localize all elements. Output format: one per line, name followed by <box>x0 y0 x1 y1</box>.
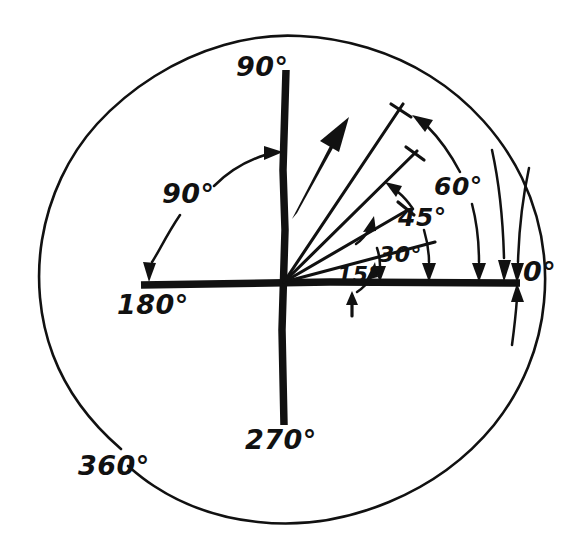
horizontal-axis <box>141 282 520 285</box>
axes-group <box>141 70 520 425</box>
arc-90deg-curve-upper <box>214 155 265 186</box>
vertical-axis <box>282 70 286 425</box>
arc-30deg-arrowhead-upper <box>363 216 376 232</box>
label-45-arc: 45° <box>397 203 447 232</box>
label-30-arc: 30° <box>379 242 422 267</box>
arc-90deg <box>143 146 283 282</box>
arc-0deg-curve-left <box>492 150 504 258</box>
diagram-canvas: 90° 0° 180° 270° 360° 90° 60° 45° 30° 15… <box>0 0 581 545</box>
label-360-outer: 360° <box>78 450 150 481</box>
label-180-left: 180° <box>117 289 189 320</box>
arc-60deg-curve-lower <box>472 204 479 262</box>
arc-0deg-arrowhead-left <box>498 260 511 282</box>
arc-45deg <box>385 182 436 282</box>
label-270-bottom: 270° <box>245 424 317 455</box>
label-90-top: 90° <box>236 51 289 82</box>
arc-90deg-curve-lower <box>152 215 180 262</box>
arc-0deg-stem-below <box>512 298 517 345</box>
label-15-arc: 15° <box>337 262 380 287</box>
label-90-arc: 90° <box>162 178 215 209</box>
label-0-right: 0° <box>523 256 556 287</box>
bold-direction-arrow <box>292 117 349 219</box>
arc-15deg-arrowhead-lower <box>346 291 358 305</box>
label-60-arc: 60° <box>434 172 483 201</box>
arc-90deg-arrowhead-lower <box>143 262 156 282</box>
bold-arrow-head <box>320 117 349 152</box>
bold-arrow-shaft <box>292 139 338 219</box>
arc-60deg-curve-upper <box>427 126 460 172</box>
angle-convention-diagram: 90° 0° 180° 270° 360° 90° 60° 45° 30° 15… <box>0 0 581 545</box>
